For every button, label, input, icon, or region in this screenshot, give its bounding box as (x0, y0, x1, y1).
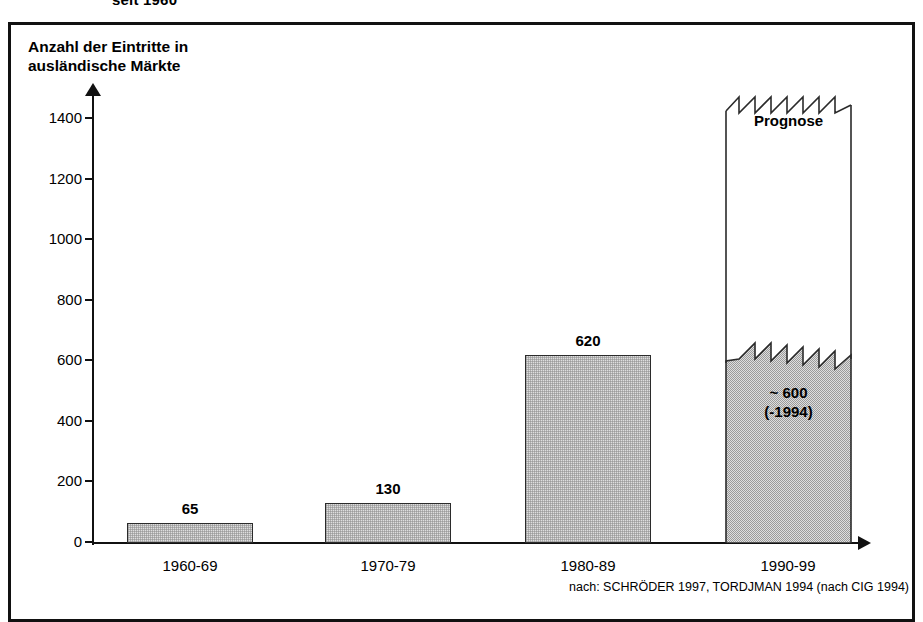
y-tick-1000 (85, 238, 94, 240)
bar-label-1990-99: ~ 600 (-1994) (725, 384, 852, 422)
y-tick-label-400: 400 (24, 413, 82, 428)
y-tick-200 (85, 480, 94, 482)
y-tick-0 (85, 541, 94, 543)
x-tick-label-1960-69: 1960-69 (110, 557, 270, 574)
bar-label-1960-69: 65 (110, 500, 270, 517)
y-axis-line (92, 90, 94, 545)
bar-1990-99-forecast (725, 93, 852, 543)
y-tick-label-1400: 1400 (24, 110, 82, 125)
bar-1960-69 (127, 523, 253, 543)
bar-1970-79 (325, 503, 451, 543)
x-tick-label-1990-99: 1990-99 (708, 557, 868, 574)
bar-label-1970-79: 130 (308, 480, 468, 497)
bar-label-1980-89: 620 (508, 332, 668, 349)
y-tick-400 (85, 420, 94, 422)
y-tick-600 (85, 359, 94, 361)
y-tick-label-200: 200 (24, 473, 82, 488)
x-axis-arrow-icon (858, 536, 871, 550)
y-tick-label-600: 600 (24, 352, 82, 367)
y-tick-1200 (85, 178, 94, 180)
y-axis-arrow-icon (85, 83, 101, 96)
bar-1980-89 (525, 355, 651, 543)
y-tick-label-800: 800 (24, 292, 82, 307)
x-tick-label-1970-79: 1970-79 (308, 557, 468, 574)
y-tick-label-1200: 1200 (24, 171, 82, 186)
forecast-band-label: Prognose (725, 112, 852, 129)
y-tick-800 (85, 299, 94, 301)
y-tick-1400 (85, 117, 94, 119)
top-caption: seit 1960 (112, 0, 177, 8)
x-tick-label-1980-89: 1980-89 (508, 557, 668, 574)
y-tick-label-0: 0 (24, 534, 82, 549)
source-note: nach: SCHRÖDER 1997, TORDJMAN 1994 (nach… (569, 580, 909, 594)
chart-title: Anzahl der Eintritte in ausländische Mär… (28, 38, 188, 76)
y-tick-label-1000: 1000 (24, 231, 82, 246)
